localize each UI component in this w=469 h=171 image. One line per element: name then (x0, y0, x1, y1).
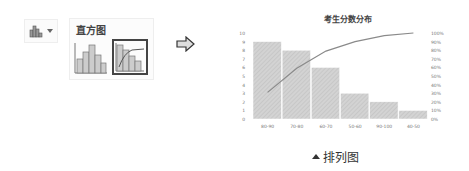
svg-text:70%: 70% (431, 57, 442, 62)
svg-text:10%: 10% (431, 108, 442, 113)
figure-caption: 排列图 (312, 148, 359, 165)
caption-text: 排列图 (323, 148, 359, 165)
svg-text:90-100: 90-100 (376, 124, 392, 129)
chevron-down-icon (47, 29, 53, 33)
y-axis-right: 0%10%20%30%40%50%60%70%80%90%100% (431, 31, 445, 122)
bar (370, 102, 398, 119)
histogram-thumbnail-icon (73, 39, 109, 75)
svg-text:0: 0 (242, 117, 245, 122)
gallery-title: 直方图 (76, 22, 106, 37)
svg-text:50%: 50% (431, 74, 442, 79)
svg-text:100%: 100% (431, 31, 445, 36)
svg-text:0%: 0% (431, 117, 439, 122)
x-axis-labels: 80-9070-8060-7050-6090-10040-50 (261, 124, 420, 129)
bars (253, 42, 427, 119)
svg-text:40%: 40% (431, 83, 442, 88)
svg-text:7: 7 (242, 57, 245, 62)
triangle-up-icon (312, 154, 320, 159)
svg-text:90%: 90% (431, 40, 442, 45)
svg-text:9: 9 (242, 40, 245, 45)
histogram-gallery: 直方图 (69, 18, 154, 80)
svg-text:50-60: 50-60 (349, 124, 362, 129)
svg-text:80-90: 80-90 (261, 124, 274, 129)
svg-text:6: 6 (242, 65, 245, 70)
bar (253, 42, 281, 119)
svg-text:60-70: 60-70 (319, 124, 332, 129)
pareto-option[interactable] (112, 39, 148, 75)
bar (399, 110, 427, 119)
histogram-chart-icon (29, 24, 43, 38)
right-arrow-icon (176, 36, 196, 56)
svg-text:30%: 30% (431, 91, 442, 96)
svg-text:80%: 80% (431, 48, 442, 53)
svg-text:5: 5 (242, 74, 245, 79)
svg-text:10: 10 (239, 31, 245, 36)
svg-text:8: 8 (242, 48, 245, 53)
svg-text:60%: 60% (431, 65, 442, 70)
svg-text:20%: 20% (431, 100, 442, 105)
y-axis-left: 012345678910 (239, 31, 245, 122)
chart-type-button[interactable] (24, 19, 58, 43)
histogram-option[interactable] (73, 39, 109, 75)
svg-text:1: 1 (242, 108, 245, 113)
chart-title: 考生分数分布 (324, 14, 372, 24)
bar (282, 50, 310, 119)
svg-text:3: 3 (242, 91, 245, 96)
svg-text:2: 2 (242, 100, 245, 105)
svg-text:70-80: 70-80 (290, 124, 303, 129)
bar (311, 67, 339, 119)
svg-text:40-50: 40-50 (407, 124, 420, 129)
svg-text:4: 4 (242, 83, 245, 88)
pareto-chart: 考生分数分布 012345678910 0%10%20%30%40%50%60%… (228, 8, 469, 133)
bar (341, 93, 369, 119)
pareto-thumbnail-icon (114, 41, 146, 73)
